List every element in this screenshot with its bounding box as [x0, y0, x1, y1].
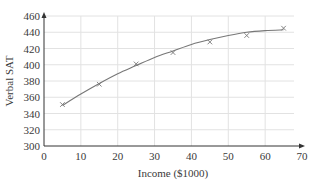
x-tick-label: 20: [112, 150, 124, 162]
y-axis-label: Verbal SAT: [3, 55, 15, 106]
chart: 0102030405060703003203403603804004204404…: [0, 0, 313, 183]
y-tick-label: 360: [24, 91, 41, 103]
y-axis-arrow-icon: [42, 12, 47, 18]
data-markers: [60, 26, 286, 107]
y-tick-label: 400: [24, 59, 41, 71]
x-tick-label: 40: [186, 150, 198, 162]
y-tick-label: 440: [24, 26, 41, 38]
y-tick-label: 380: [24, 75, 41, 87]
gridlines: [44, 16, 294, 146]
x-tick-label: 0: [41, 150, 47, 162]
x-axis-arrow-icon: [299, 144, 305, 149]
y-tick-label: 300: [24, 140, 41, 152]
fitted-curve-path: [62, 30, 283, 106]
x-tick-label: 60: [260, 150, 272, 162]
x-tick-label: 30: [149, 150, 161, 162]
y-tick-label: 420: [24, 43, 41, 55]
x-marker-icon: [208, 40, 213, 45]
x-marker-icon: [281, 26, 286, 31]
x-tick-label: 70: [297, 150, 309, 162]
y-tick-label: 460: [24, 10, 41, 22]
x-tick-label: 50: [223, 150, 235, 162]
fitted-curve: [62, 30, 283, 106]
chart-canvas: 0102030405060703003203403603804004204404…: [0, 0, 313, 183]
y-tick-label: 340: [24, 108, 41, 120]
x-tick-label: 10: [75, 150, 87, 162]
x-marker-icon: [244, 33, 249, 38]
y-tick-label: 320: [24, 124, 41, 136]
x-axis-label: Income ($1000): [138, 167, 209, 180]
